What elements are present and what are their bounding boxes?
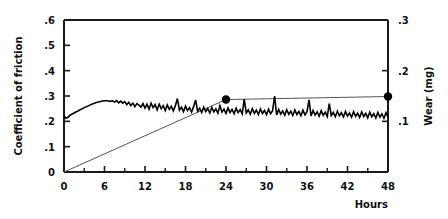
y-tick-label: 0 — [48, 167, 55, 178]
x-axis-title: Hours — [355, 199, 388, 210]
y-tick-label: .1 — [44, 142, 55, 153]
x-tick-label: 0 — [61, 181, 68, 192]
x-tick-label: 30 — [260, 181, 274, 192]
x-tick-label: 6 — [101, 181, 108, 192]
x-tick-label: 18 — [179, 181, 193, 192]
x-tick-label: 24 — [219, 181, 233, 192]
x-tick-label: 48 — [381, 181, 395, 192]
y-axis-right-title: Wear (mg) — [423, 66, 434, 125]
y-tick-label: .2 — [44, 116, 55, 127]
y-tick-label: .3 — [44, 91, 55, 102]
y-tick-label: .5 — [44, 40, 55, 51]
x-axis-ticks: 0612182430364248 — [61, 166, 395, 192]
wear-marker — [222, 95, 230, 103]
series-group — [64, 92, 392, 172]
y2-tick-label: .1 — [398, 116, 409, 127]
wear-trend-line — [64, 97, 388, 172]
y-axis-left-title: Coefficient of friction — [13, 36, 24, 155]
friction-wear-chart: 0.1.2.3.4.5.6 .1.2.3 0612182430364248 Co… — [0, 0, 448, 219]
chart-canvas: 0.1.2.3.4.5.6 .1.2.3 0612182430364248 Co… — [0, 0, 448, 219]
y-tick-label: .6 — [44, 15, 55, 26]
wear-marker — [384, 92, 392, 100]
y2-tick-label: .3 — [398, 15, 409, 26]
x-tick-label: 42 — [341, 181, 355, 192]
x-tick-label: 36 — [300, 181, 314, 192]
y-tick-label: .4 — [44, 66, 55, 77]
y-axis-right-ticks: .1.2.3 — [382, 15, 409, 127]
y2-tick-label: .2 — [398, 66, 409, 77]
y-axis-left-ticks: 0.1.2.3.4.5.6 — [44, 15, 70, 178]
x-tick-label: 12 — [138, 181, 152, 192]
